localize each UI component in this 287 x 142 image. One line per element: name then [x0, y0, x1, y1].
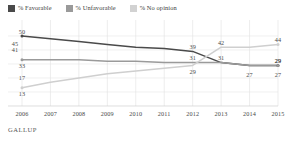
legend-label-unfavorable: % Unfavorable [76, 5, 116, 11]
data-label: 17 [19, 73, 25, 80]
legend-label-no-opinion: % No opinion [140, 5, 177, 11]
x-axis-tick-label: 2008 [72, 110, 85, 117]
chart-legend: % Favorable % Unfavorable % No opinion [8, 2, 280, 14]
x-axis-tick-label: 2009 [101, 110, 114, 117]
data-label: 39 [189, 42, 195, 49]
data-label: 41 [12, 45, 18, 52]
legend-item-favorable: % Favorable [8, 5, 52, 12]
x-axis-tick-label: 2014 [243, 110, 256, 117]
data-label: 31 [189, 54, 195, 61]
x-axis-tick-label: 2010 [129, 110, 142, 117]
data-label: 31 [218, 54, 224, 61]
data-label: 27 [246, 70, 252, 77]
data-label: 50 [19, 27, 25, 34]
data-label: 29 [275, 56, 281, 63]
legend-item-unfavorable: % Unfavorable [66, 5, 116, 12]
x-axis-tick-label: 2012 [186, 110, 199, 117]
source-attribution: GALLUP [8, 126, 37, 133]
plot-svg [0, 18, 287, 110]
data-label: 44 [275, 35, 281, 42]
series-lines [22, 36, 278, 88]
data-label: 13 [19, 90, 25, 97]
x-axis-tick-label: 2007 [44, 110, 57, 117]
legend-label-favorable: % Favorable [18, 5, 52, 11]
gallup-line-chart: % Favorable % Unfavorable % No opinion 5… [0, 0, 287, 142]
data-label: 33 [19, 62, 25, 69]
legend-item-no-opinion: % No opinion [130, 5, 177, 12]
plot-area [0, 18, 287, 110]
x-axis-tick-label: 2006 [16, 110, 29, 117]
legend-swatch-no-opinion-icon [130, 5, 137, 12]
data-label: 42 [218, 38, 224, 45]
data-label: 29 [189, 67, 195, 74]
legend-swatch-unfavorable-icon [66, 5, 73, 12]
x-axis-tick-label: 2013 [215, 110, 228, 117]
x-axis-tick-label: 2011 [158, 110, 171, 117]
data-label: 27 [275, 70, 281, 77]
x-axis: 2006200720082009201020112012201320142015 [0, 110, 287, 124]
vertical-gridlines [8, 20, 278, 106]
legend-swatch-favorable-icon [8, 5, 15, 12]
x-axis-tick-label: 2015 [272, 110, 285, 117]
